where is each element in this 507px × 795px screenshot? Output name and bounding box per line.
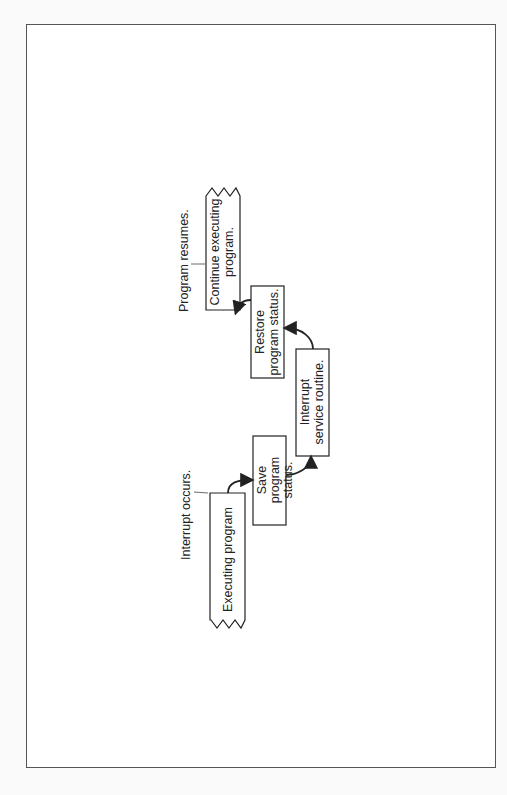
label-continue-line1: Continue executing	[208, 198, 222, 305]
label-save-line3: status.	[281, 462, 295, 499]
interrupt-flow-diagram: Executing program Save program status. I…	[0, 0, 507, 795]
arrow-isr-to-restore	[286, 328, 313, 349]
label-restore-line2: program status.	[267, 289, 281, 376]
annotation-interrupt-occurs: Interrupt occurs.	[179, 470, 193, 560]
box-save-status: Save program status.	[253, 436, 295, 525]
box-restore-status: Restore program status.	[251, 286, 284, 378]
interrupt-pointer	[194, 492, 208, 493]
label-isr-line1: Interrupt	[298, 378, 312, 425]
label-isr-line2: service routine.	[312, 360, 326, 445]
label-restore-line1: Restore	[253, 310, 267, 354]
box-interrupt-service-routine: Interrupt service routine.	[296, 349, 329, 456]
label-continue-line2: program.	[222, 227, 236, 277]
label-executing-program: Executing program	[221, 507, 235, 612]
box-continue-executing: Continue executing program.	[206, 188, 240, 310]
label-save-line2: program	[268, 457, 282, 504]
box-executing-program: Executing program	[210, 493, 245, 628]
annotation-program-resumes: Program resumes.	[177, 209, 191, 312]
arrow-executing-to-save	[228, 480, 251, 493]
label-save-line1: Save	[255, 466, 269, 495]
